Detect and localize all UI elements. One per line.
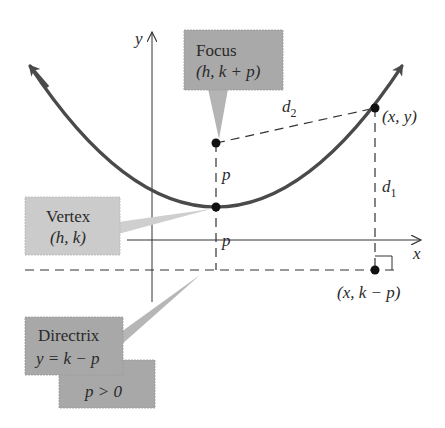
vertex-coords: (h, k) xyxy=(50,228,86,247)
d1-label: d1 xyxy=(382,177,397,200)
directrix-callout: p > 0 Directrix y = k − p xyxy=(25,275,200,408)
p-label-upper: p xyxy=(221,165,231,184)
condition-text: p > 0 xyxy=(84,382,122,401)
directrix-title: Directrix xyxy=(38,326,100,345)
p-label-lower: p xyxy=(221,231,231,250)
directrix-equation: y = k − p xyxy=(34,349,100,368)
focus-callout: Focus (h, k + p) xyxy=(184,30,283,139)
focus-title: Focus xyxy=(196,41,237,60)
vertex-callout: Vertex (h, k) xyxy=(25,197,211,255)
vertex-title: Vertex xyxy=(46,207,91,226)
focus-point xyxy=(212,139,221,148)
y-axis-label: y xyxy=(133,29,143,48)
directrix-point-label: (x, k − p) xyxy=(337,283,401,302)
d2-label: d2 xyxy=(282,97,297,120)
general-point-label: (x, y) xyxy=(382,107,417,126)
focus-coords: (h, k + p) xyxy=(196,62,261,81)
general-point xyxy=(371,104,380,113)
directrix-point xyxy=(371,266,380,275)
parabola-diagram: y x p p d2 d1 (x, y) (x, k − p) Focus (h… xyxy=(0,0,445,428)
x-axis-label: x xyxy=(412,244,421,263)
parabola-left-arrow xyxy=(30,66,48,87)
vertex-point xyxy=(212,203,221,212)
